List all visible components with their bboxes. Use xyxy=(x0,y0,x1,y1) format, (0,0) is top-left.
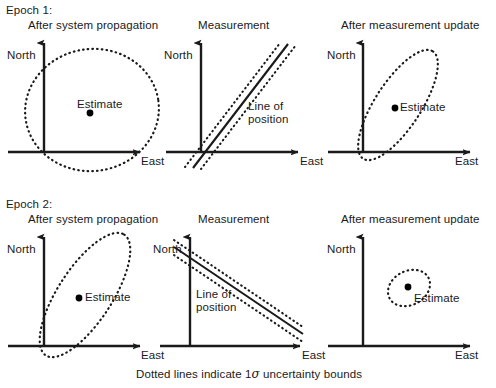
epoch2-panel1-north-label: North xyxy=(7,243,36,256)
epoch2-panel3-east-label: East xyxy=(455,349,478,362)
epoch1-panel1-title: After system propagation xyxy=(28,19,158,32)
epoch2-panel2-title: Measurement xyxy=(198,213,269,226)
epoch2-panel3-title: After measurement update xyxy=(341,213,480,226)
epoch2-lop-lower-bound xyxy=(174,255,303,342)
kalman-filter-epoch-diagram: Epoch 1: After system propagation Measur… xyxy=(0,0,496,388)
epoch1-panel2-lop-label-line2: position xyxy=(248,113,288,127)
epoch1-panel3-estimate-point xyxy=(392,105,399,112)
epoch2-panel1-title: After system propagation xyxy=(28,213,158,226)
caption-head: Dotted lines indicate 1 xyxy=(136,368,251,380)
epoch2-panel2-lop-label-line2: position xyxy=(196,301,236,315)
epoch1-panel3-east-label: East xyxy=(455,155,478,168)
epoch2-panel3-estimate-point xyxy=(405,284,412,291)
epoch2-panel2-lop-label-line1: Line of xyxy=(196,288,231,302)
figure-caption: Dotted lines indicate 1σ uncertainty bou… xyxy=(136,368,362,381)
epoch2-panel1-east-label: East xyxy=(141,349,164,362)
epoch1-panel3-north-label: North xyxy=(327,49,356,62)
epoch-1-label: Epoch 1: xyxy=(6,4,52,17)
epoch1-panel1-north-label: North xyxy=(7,49,36,62)
epoch1-panel2-east-label: East xyxy=(300,155,323,168)
epoch1-panel3-estimate-label: Estimate xyxy=(400,101,446,114)
epoch2-panel1-estimate-label: Estimate xyxy=(85,291,131,304)
epoch2-panel2-north-label: North xyxy=(153,243,182,256)
sigma-symbol: σ xyxy=(251,367,259,381)
epoch2-lop-upper-bound xyxy=(174,240,303,327)
epoch2-line-of-position xyxy=(174,247,303,334)
epoch1-panel1-east-label: East xyxy=(141,155,164,168)
caption-tail: uncertainty bounds xyxy=(260,368,362,380)
epoch1-panel2-lop-label-line1: Line of xyxy=(248,100,283,114)
epoch2-panel2-east-label: East xyxy=(302,349,325,362)
epoch2-panel1-estimate-point xyxy=(76,295,83,302)
epoch1-panel2-north-label: North xyxy=(164,49,193,62)
epoch-2-label: Epoch 2: xyxy=(6,198,52,211)
diagram-vector-layer xyxy=(0,0,496,388)
epoch2-panel3-north-label: North xyxy=(327,243,356,256)
epoch1-panel3-title: After measurement update xyxy=(341,19,480,32)
epoch1-panel2-title: Measurement xyxy=(198,19,269,32)
epoch1-panel1-estimate-label: Estimate xyxy=(77,98,123,111)
epoch2-panel3-estimate-label: Estimate xyxy=(414,292,460,305)
